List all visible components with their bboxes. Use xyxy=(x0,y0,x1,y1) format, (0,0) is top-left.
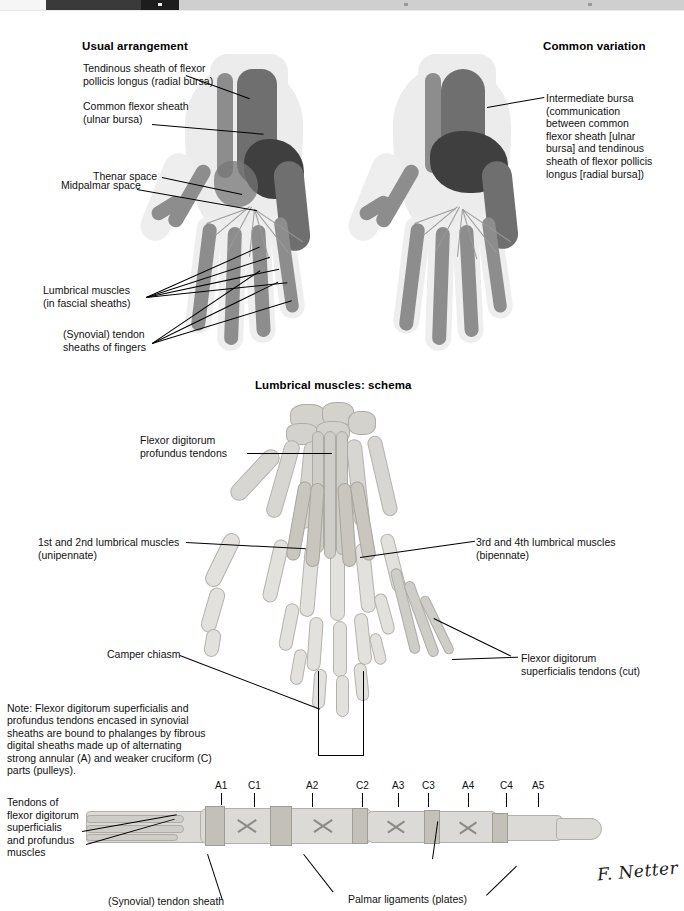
chrome-tick-icon xyxy=(158,3,162,6)
label-palmar-ligaments: Palmar ligaments (plates) xyxy=(348,893,538,906)
pulley-band-a2 xyxy=(270,806,292,846)
pulley-label-c1: C1 xyxy=(248,780,261,791)
chrome-segment-active-tab[interactable] xyxy=(46,0,141,10)
pulley-label-a1: A1 xyxy=(215,780,227,791)
pulley-label-a4: A4 xyxy=(462,780,474,791)
pulley-band-c1 xyxy=(236,809,258,841)
label-camper-chiasm: Camper chiasm xyxy=(107,648,227,661)
artist-signature: F. Netter xyxy=(596,857,679,884)
pulley-label-a2: A2 xyxy=(306,780,318,791)
pulley-band-a4 xyxy=(424,810,440,844)
pulley-label-a3: A3 xyxy=(392,780,404,791)
chrome-segment-selected[interactable] xyxy=(141,0,179,10)
label-midpalmar-space: Midpalmar space xyxy=(61,179,201,192)
label-lumbrical-muscles: Lumbrical muscles (in fascial sheaths) xyxy=(43,284,203,309)
pulley-label-a5: A5 xyxy=(532,780,544,791)
panel-middle-title: Lumbrical muscles: schema xyxy=(255,379,412,391)
chrome-toolbar-dot2-icon xyxy=(588,3,592,6)
pulley-label-c3: C3 xyxy=(422,780,435,791)
panel-top-right-title: Common variation xyxy=(543,40,646,52)
label-common-flexor-sheath: Common flexor sheath (ulnar bursa) xyxy=(83,100,243,125)
pulley-label-c2: C2 xyxy=(356,780,369,791)
pulley-label-c4: C4 xyxy=(500,780,513,791)
label-lumbricals-3-4: 3rd and 4th lumbrical muscles (bipennate… xyxy=(476,536,656,561)
note-text: Note: Flexor digitorum superficialis and… xyxy=(7,702,212,776)
pulley-band-c2 xyxy=(312,809,334,841)
chrome-segment-toolbar xyxy=(179,0,684,10)
anatomy-plate: Usual arrangement Common variation xyxy=(0,11,684,911)
pulley-band-a3 xyxy=(352,808,368,844)
label-synovial-tendon-sheath: (Synovial) tendon sheath xyxy=(108,895,288,908)
panel-top-left-title: Usual arrangement xyxy=(82,40,188,52)
chrome-segment-left xyxy=(0,0,46,10)
pulley-band-a5 xyxy=(492,813,508,843)
pulley-band-a1 xyxy=(205,806,225,846)
chrome-toolbar-dot-icon xyxy=(404,3,408,6)
pulley-band-c4 xyxy=(458,813,478,841)
label-intermediate-bursa: Intermediate bursa (communication betwee… xyxy=(546,92,681,180)
label-fdp-tendons: Flexor digitorum profundus tendons xyxy=(140,434,290,459)
label-lumbricals-1-2: 1st and 2nd lumbrical muscles (unipennat… xyxy=(38,536,218,561)
camper-chiasm-bracket xyxy=(318,671,364,756)
label-fds-tendons-cut: Flexor digitorum superficialis tendons (… xyxy=(521,652,681,677)
label-tendinous-sheath-fpl: Tendinous sheath of flexor pollicis long… xyxy=(83,62,243,87)
pulley-band-c3 xyxy=(386,811,406,841)
